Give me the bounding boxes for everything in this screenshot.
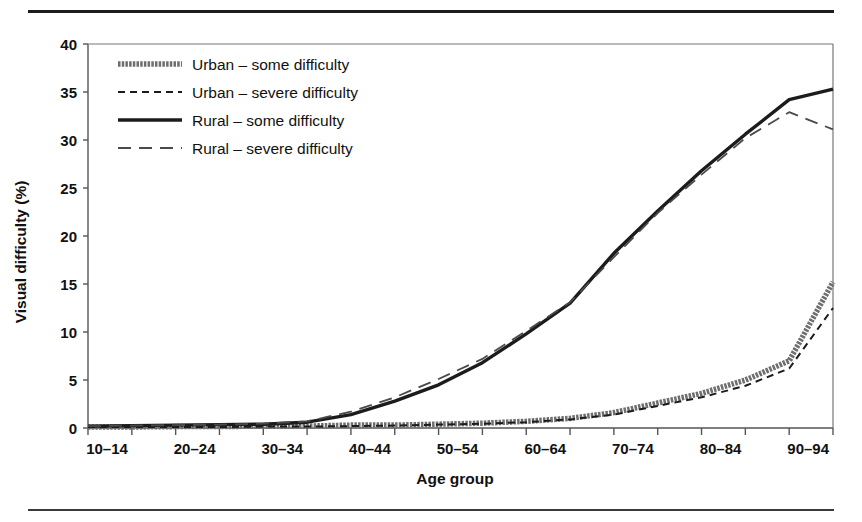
chart-legend: Urban – some difficultyUrban – severe di… xyxy=(118,56,358,157)
legend-label-3: Rural – severe difficulty xyxy=(192,140,353,157)
x-tick-label: 20–24 xyxy=(174,440,216,457)
x-tick-label: 70–74 xyxy=(612,440,654,457)
chart-area: 0510152025303540 10–1420–2430–3440–4450–… xyxy=(0,22,862,492)
y-axis-ticks: 0510152025303540 xyxy=(60,36,88,437)
x-tick-label: 10–14 xyxy=(86,440,128,457)
line-chart: 0510152025303540 10–1420–2430–3440–4450–… xyxy=(0,22,862,492)
x-tick-label: 80–84 xyxy=(700,440,742,457)
top-rule xyxy=(28,10,834,13)
x-axis-label: Age group xyxy=(416,470,494,487)
bottom-rule xyxy=(28,509,834,511)
y-tick-label: 35 xyxy=(60,84,77,101)
y-tick-label: 15 xyxy=(60,276,77,293)
legend-label-0: Urban – some difficulty xyxy=(192,56,350,73)
axes xyxy=(88,44,833,428)
x-axis-ticks: 10–1420–2430–3440–4450–5460–6470–7480–84… xyxy=(86,428,833,457)
y-axis-label: Visual difficulty (%) xyxy=(12,181,29,324)
legend-label-2: Rural – some difficulty xyxy=(192,112,344,129)
y-tick-label: 40 xyxy=(60,36,77,53)
y-tick-label: 5 xyxy=(69,372,77,389)
series-line-0 xyxy=(88,282,833,427)
x-tick-label: 40–44 xyxy=(349,440,391,457)
x-tick-label: 90–94 xyxy=(787,440,829,457)
figure-container: 0510152025303540 10–1420–2430–3440–4450–… xyxy=(0,0,862,522)
legend-label-1: Urban – severe difficulty xyxy=(192,84,358,101)
y-tick-label: 20 xyxy=(60,228,77,245)
y-tick-label: 10 xyxy=(60,324,77,341)
y-tick-label: 0 xyxy=(69,420,77,437)
y-tick-label: 25 xyxy=(60,180,77,197)
x-tick-label: 50–54 xyxy=(437,440,479,457)
series-line-3 xyxy=(88,112,833,426)
series-line-1 xyxy=(88,308,833,427)
x-tick-label: 30–34 xyxy=(261,440,303,457)
x-tick-label: 60–64 xyxy=(524,440,566,457)
y-tick-label: 30 xyxy=(60,132,77,149)
